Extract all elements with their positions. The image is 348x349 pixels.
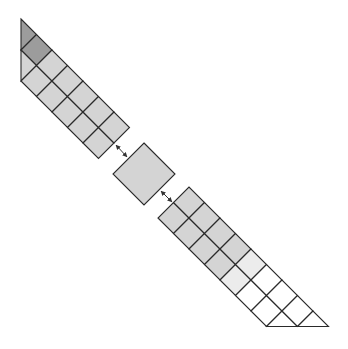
- diagram-canvas: [0, 0, 348, 349]
- diagram-svg: [0, 0, 348, 349]
- lower-right-strip: [158, 187, 329, 327]
- double-arrow-icon: [116, 145, 127, 157]
- double-arrow-icon: [161, 191, 172, 202]
- upper-left-strip: [21, 19, 130, 159]
